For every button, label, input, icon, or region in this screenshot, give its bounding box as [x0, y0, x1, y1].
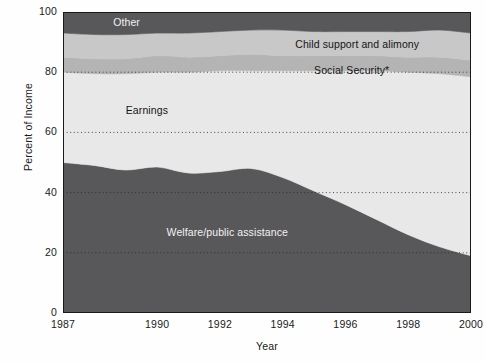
x-tick-2000: 2000	[441, 318, 486, 330]
x-tick-1996: 1996	[315, 318, 375, 330]
y-tick-100: 100	[15, 5, 57, 17]
x-tick-1990: 1990	[127, 318, 187, 330]
x-axis-title: Year	[63, 340, 471, 352]
series-label-1: Child support and alimony	[295, 38, 419, 50]
y-tick-40: 40	[15, 186, 57, 198]
series-label-2: Social Security*	[314, 64, 389, 76]
series-label-0: Other	[113, 16, 140, 28]
x-tick-1987: 1987	[33, 318, 93, 330]
series-label-3: Earnings	[126, 104, 168, 116]
x-tick-1994: 1994	[253, 318, 313, 330]
area-series-group	[63, 12, 471, 313]
series-label-4: Welfare/public assistance	[167, 226, 288, 238]
x-tick-1992: 1992	[190, 318, 250, 330]
plot-area: OtherChild support and alimonySocial Sec…	[63, 12, 471, 313]
y-tick-80: 80	[15, 65, 57, 77]
chart-figure: Percent of Income 020406080100 OtherChil…	[0, 0, 486, 362]
y-tick-60: 60	[15, 125, 57, 137]
stacked-area-svg	[63, 12, 471, 313]
y-tick-20: 20	[15, 246, 57, 258]
x-tick-1998: 1998	[378, 318, 438, 330]
y-tick-0: 0	[15, 306, 57, 318]
